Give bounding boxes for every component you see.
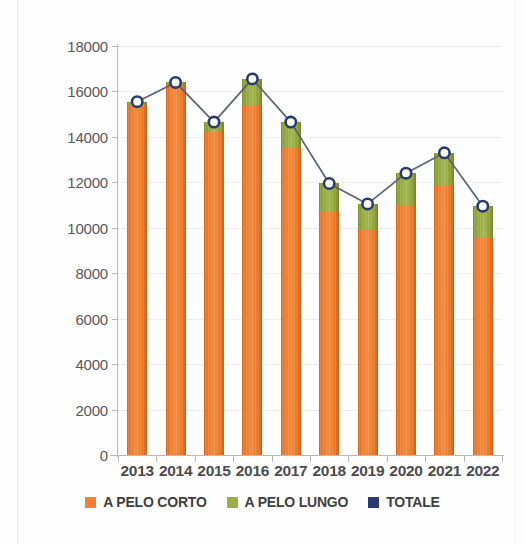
x-axis-category-label: 2016: [233, 462, 271, 480]
bar-segment-pelo-corto[interactable]: [242, 105, 262, 455]
bar-segment-pelo-lungo[interactable]: [396, 173, 416, 205]
x-axis-category-label: 2019: [348, 462, 386, 480]
bar-group[interactable]: [358, 46, 378, 455]
x-axis-category-label: 2021: [425, 462, 463, 480]
bar-segment-pelo-corto[interactable]: [166, 85, 186, 455]
x-axis-category-label: 2013: [118, 462, 156, 480]
bar-segment-pelo-corto[interactable]: [396, 205, 416, 455]
bar-group[interactable]: [242, 46, 262, 455]
y-axis-tick-label: 8000: [75, 265, 108, 282]
legend-item[interactable]: A PELO CORTO: [85, 494, 206, 510]
bar-group[interactable]: [166, 46, 186, 455]
y-axis-tick-mark: [112, 228, 118, 229]
bar-segment-pelo-lungo[interactable]: [166, 82, 186, 84]
y-axis-tick-label: 6000: [75, 310, 108, 327]
bar-segment-pelo-corto[interactable]: [204, 132, 224, 455]
page-edge-right: [515, 0, 516, 544]
y-axis-tick-mark: [112, 137, 118, 138]
bar-group[interactable]: [127, 46, 147, 455]
bar-group[interactable]: [281, 46, 301, 455]
y-axis-tick-label: 4000: [75, 356, 108, 373]
bar-segment-pelo-lungo[interactable]: [319, 183, 339, 210]
bar-segment-pelo-lungo[interactable]: [127, 102, 147, 105]
x-axis-tick-mark: [464, 456, 465, 462]
bar-group[interactable]: [473, 46, 493, 455]
y-axis-tick-mark: [112, 319, 118, 320]
bar-segment-pelo-lungo[interactable]: [204, 122, 224, 132]
y-axis-tick-label: 0: [100, 447, 108, 464]
x-axis-tick-mark: [387, 456, 388, 462]
x-axis-tick-mark: [233, 456, 234, 462]
y-axis-tick-label: 2000: [75, 401, 108, 418]
bar-group[interactable]: [319, 46, 339, 455]
legend-item-label: A PELO CORTO: [103, 494, 206, 510]
square-swatch-icon: [227, 497, 238, 508]
y-axis-tick-mark: [112, 410, 118, 411]
bar-segment-pelo-lungo[interactable]: [358, 204, 378, 230]
x-axis-category-label: 2020: [387, 462, 425, 480]
bar-segment-pelo-lungo[interactable]: [434, 153, 454, 185]
x-axis-tick-mark: [425, 456, 426, 462]
x-axis-tick-mark: [348, 456, 349, 462]
stacked-bar-chart: 0200040006000800010000120001400016000180…: [0, 0, 525, 544]
x-axis-tick-mark: [310, 456, 311, 462]
y-axis-tick-mark: [112, 273, 118, 274]
bar-segment-pelo-lungo[interactable]: [242, 79, 262, 105]
x-axis-tick-mark: [156, 456, 157, 462]
x-axis-tick-mark: [502, 456, 503, 462]
y-axis-tick-label: 12000: [67, 174, 108, 191]
y-axis-tick-mark: [112, 91, 118, 92]
y-axis-tick-mark: [112, 46, 118, 47]
chart-legend: A PELO CORTOA PELO LUNGOTOTALE: [0, 494, 525, 510]
y-axis-tick-mark: [112, 182, 118, 183]
x-axis-category-label: 2015: [195, 462, 233, 480]
square-swatch-icon: [368, 497, 379, 508]
bar-segment-pelo-corto[interactable]: [358, 230, 378, 455]
x-axis-tick-mark: [272, 456, 273, 462]
bar-segment-pelo-corto[interactable]: [473, 238, 493, 455]
bar-segment-pelo-lungo[interactable]: [281, 122, 301, 148]
x-axis-category-label: 2014: [156, 462, 194, 480]
y-axis-labels: 0200040006000800010000120001400016000180…: [0, 0, 108, 544]
bar-segment-pelo-corto[interactable]: [127, 105, 147, 455]
x-axis-line: [110, 455, 504, 456]
y-axis-tick-label: 18000: [67, 38, 108, 55]
bar-group[interactable]: [396, 46, 416, 455]
legend-item[interactable]: A PELO LUNGO: [227, 494, 349, 510]
x-axis-category-label: 2018: [310, 462, 348, 480]
y-axis-tick-label: 14000: [67, 128, 108, 145]
y-axis-tick-label: 16000: [67, 83, 108, 100]
x-axis-category-label: 2017: [272, 462, 310, 480]
bar-segment-pelo-corto[interactable]: [281, 148, 301, 455]
plot-area: [118, 46, 502, 455]
y-axis-tick-mark: [112, 364, 118, 365]
legend-item-label: A PELO LUNGO: [245, 494, 349, 510]
x-axis-tick-mark: [195, 456, 196, 462]
bar-segment-pelo-corto[interactable]: [434, 185, 454, 455]
bar-segment-pelo-lungo[interactable]: [473, 206, 493, 238]
bar-group[interactable]: [434, 46, 454, 455]
legend-item-label: TOTALE: [386, 494, 440, 510]
bar-group[interactable]: [204, 46, 224, 455]
legend-item[interactable]: TOTALE: [368, 494, 440, 510]
x-axis-tick-mark: [118, 456, 119, 462]
x-axis-category-label: 2022: [464, 462, 502, 480]
square-swatch-icon: [85, 497, 96, 508]
bar-segment-pelo-corto[interactable]: [319, 211, 339, 455]
y-axis-tick-label: 10000: [67, 219, 108, 236]
